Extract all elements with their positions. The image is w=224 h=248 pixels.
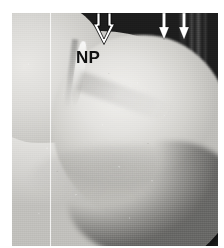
arrow-large-outlined-icon bbox=[92, 13, 116, 45]
arrow-thin-right-icon bbox=[177, 13, 191, 41]
specimen-photograph: NP bbox=[12, 13, 218, 246]
annotation-layer: NP bbox=[12, 13, 218, 246]
figure-root: NP bbox=[0, 0, 224, 248]
label-np: NP bbox=[76, 49, 100, 66]
arrow-thin-left-icon bbox=[157, 13, 171, 41]
